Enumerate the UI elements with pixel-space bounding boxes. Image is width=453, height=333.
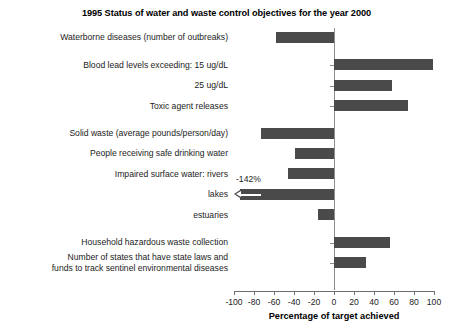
x-axis-tick	[334, 291, 335, 295]
category-label-line: Number of states that have state laws an…	[0, 252, 228, 262]
x-axis-tick	[294, 291, 295, 295]
category-label-line: Blood lead levels exceeding: 15 ug/dL	[0, 60, 228, 70]
lakes-value-annotation: -142%	[236, 174, 261, 184]
bar	[318, 209, 334, 220]
category-label-line: People receiving safe drinking water	[0, 148, 228, 158]
x-axis-tick	[354, 291, 355, 295]
x-axis-tick	[374, 291, 375, 295]
bar	[288, 168, 334, 179]
clipped-bar-arrow-shaft	[239, 194, 261, 196]
x-axis-tick	[254, 291, 255, 295]
category-label-line: 25 ug/dL	[0, 80, 228, 90]
bar	[334, 59, 433, 70]
category-label-line: lakes	[0, 189, 228, 199]
bar-row	[234, 253, 434, 274]
bar	[261, 128, 334, 139]
x-axis-tick	[434, 291, 435, 295]
category-label-line: funds to track sentinel environmental di…	[0, 263, 228, 273]
category-label-line: Household hazardous waste collection	[0, 237, 228, 247]
x-axis-tick	[414, 291, 415, 295]
category-label-column: Waterborne diseases (number of outbreaks…	[0, 28, 228, 290]
bar-row	[234, 28, 434, 49]
bar-chart: 1995 Status of water and waste control o…	[0, 0, 453, 333]
category-label: lakes	[0, 189, 228, 199]
x-axis-tick	[234, 291, 235, 295]
bar-row	[234, 76, 434, 97]
chart-title: 1995 Status of water and waste control o…	[0, 8, 453, 18]
category-label-line: Impaired surface water: rivers	[0, 169, 228, 179]
bar-row	[234, 124, 434, 145]
x-axis-title: Percentage of target achieved	[234, 311, 434, 321]
plot-area	[234, 28, 434, 290]
bar-row	[234, 205, 434, 226]
bar	[334, 100, 408, 111]
bar-row	[234, 55, 434, 76]
x-axis-tick	[274, 291, 275, 295]
bar-row	[234, 185, 434, 206]
category-label: 25 ug/dL	[0, 80, 228, 90]
bar	[276, 32, 334, 43]
category-label: Waterborne diseases (number of outbreaks…	[0, 32, 228, 42]
x-axis-tick	[394, 291, 395, 295]
category-label: People receiving safe drinking water	[0, 148, 228, 158]
category-label: Blood lead levels exceeding: 15 ug/dL	[0, 60, 228, 70]
category-label: Toxic agent releases	[0, 101, 228, 111]
category-label: Number of states that have state laws an…	[0, 252, 228, 273]
bar-row	[234, 144, 434, 165]
bar	[334, 80, 392, 91]
category-label-line: Waterborne diseases (number of outbreaks…	[0, 32, 228, 42]
category-label-line: Solid waste (average pounds/person/day)	[0, 128, 228, 138]
bar	[295, 148, 334, 159]
category-label: estuaries	[0, 210, 228, 220]
category-label: Household hazardous waste collection	[0, 237, 228, 247]
category-label-line: estuaries	[0, 210, 228, 220]
bar	[334, 257, 366, 268]
clipped-bar-arrow-inner-icon	[236, 191, 241, 197]
x-axis-tick	[314, 291, 315, 295]
bar-row	[234, 96, 434, 117]
bar-row	[234, 164, 434, 185]
category-label: Solid waste (average pounds/person/day)	[0, 128, 228, 138]
category-label: Impaired surface water: rivers	[0, 169, 228, 179]
x-axis-tick-label: 100	[419, 297, 449, 307]
bar	[334, 237, 390, 248]
category-label-line: Toxic agent releases	[0, 101, 228, 111]
bar-row	[234, 233, 434, 254]
